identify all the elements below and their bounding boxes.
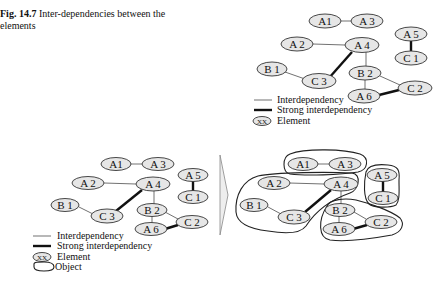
node-a3: A 3 (142, 158, 174, 171)
node-c1: C 1 (368, 192, 398, 205)
node-a2: A 2 (281, 37, 313, 51)
svg-text:C 2: C 2 (184, 216, 200, 228)
node-c2: C 2 (365, 216, 397, 229)
legend-object-icon (34, 262, 54, 271)
node-a6: A 6 (135, 223, 167, 236)
legend-element-label: Element (277, 115, 311, 126)
svg-text:C 1: C 1 (375, 192, 391, 204)
edge-b1-c3 (285, 72, 305, 79)
svg-text:C 3: C 3 (99, 210, 115, 222)
svg-text:A 6: A 6 (356, 90, 372, 102)
svg-text:B 1: B 1 (57, 199, 73, 211)
svg-text:A 2: A 2 (289, 38, 305, 50)
node-a5: A 5 (395, 27, 427, 41)
node-a1: A1 (101, 158, 131, 171)
svg-text:A1: A1 (296, 158, 309, 170)
svg-text:A 3: A 3 (337, 158, 353, 170)
svg-text:A 5: A 5 (185, 169, 201, 181)
node-a1: A1 (288, 158, 318, 171)
legend-object-label: Object (55, 261, 82, 272)
edge-a2-a4 (313, 44, 345, 45)
bottom-legend: Interdependency Strong interdependency X… (33, 230, 152, 272)
svg-text:B 1: B 1 (246, 199, 262, 211)
node-c2: C 2 (398, 81, 432, 95)
edge-b1-c3 (79, 207, 93, 214)
svg-text:A1: A1 (109, 158, 122, 170)
svg-text:XX: XX (37, 254, 47, 262)
svg-text:C 3: C 3 (286, 211, 302, 223)
node-a3: A 3 (351, 14, 383, 28)
node-a6: A 6 (348, 89, 380, 103)
node-b2: B 2 (349, 66, 381, 80)
svg-text:A 6: A 6 (331, 223, 347, 235)
svg-text:B 2: B 2 (357, 67, 373, 79)
svg-text:A 3: A 3 (359, 15, 375, 27)
node-a1: A1 (309, 14, 341, 28)
transition-arrow-icon (220, 155, 228, 235)
interdependency-diagram: .n { fill:#e6e6e6; stroke:#333; stroke-w… (0, 0, 438, 282)
node-b1: B 1 (240, 199, 268, 212)
edge-a2-a4 (289, 183, 324, 184)
node-a4: A 4 (136, 177, 170, 191)
node-c1: C 1 (178, 191, 208, 204)
node-c1: C 1 (395, 51, 427, 65)
svg-text:A 4: A 4 (145, 178, 161, 190)
svg-text:A 3: A 3 (150, 158, 166, 170)
edge-b2-c2 (380, 76, 400, 85)
svg-text:C 2: C 2 (373, 216, 389, 228)
node-b1: B 1 (51, 199, 79, 212)
svg-text:C 3: C 3 (311, 75, 327, 87)
bottom-right-diagram: A1 A 3 A 2 A 4 A 5 C 1 B 1 C 3 B 2 C 2 A… (236, 150, 402, 241)
node-a6: A 6 (323, 223, 355, 236)
node-a5: A 5 (367, 169, 397, 182)
node-c3: C 3 (91, 209, 123, 223)
svg-text:A 2: A 2 (80, 177, 96, 189)
node-b2: B 2 (137, 204, 167, 217)
edge-a4-c3-strong (329, 52, 352, 78)
svg-text:C 2: C 2 (407, 82, 423, 94)
svg-text:C 1: C 1 (185, 191, 201, 203)
svg-text:A 5: A 5 (403, 28, 419, 40)
node-c3: C 3 (278, 210, 310, 224)
svg-text:A 5: A 5 (374, 169, 390, 181)
node-b2: B 2 (325, 204, 355, 217)
legend-strong-label: Strong interdependency (277, 104, 372, 115)
svg-text:B 2: B 2 (332, 204, 348, 216)
node-a4: A 4 (324, 177, 358, 191)
node-a2: A 2 (72, 177, 104, 190)
edge-a6-c2-strong (379, 90, 399, 95)
edge-a2-a4 (104, 183, 136, 184)
node-b1: B 1 (257, 62, 287, 76)
edge-b2-c2 (354, 212, 366, 219)
node-a4: A 4 (345, 38, 379, 53)
svg-text:A 4: A 4 (333, 178, 349, 190)
svg-text:A 4: A 4 (354, 39, 370, 51)
svg-text:A 6: A 6 (143, 223, 159, 235)
node-a2: A 2 (258, 177, 290, 190)
svg-text:A 2: A 2 (266, 177, 282, 189)
node-a5: A 5 (178, 169, 208, 182)
svg-text:B 1: B 1 (264, 63, 280, 75)
node-a3: A 3 (329, 158, 361, 171)
edge-b2-c2 (165, 212, 178, 219)
bottom-left-diagram: A1 A 3 A 2 A 4 A 5 C 1 B 1 C 3 B 2 C 2 A… (33, 158, 208, 273)
svg-text:C 1: C 1 (403, 52, 419, 64)
svg-text:XX: XX (257, 118, 267, 126)
edge-b1-c3 (268, 207, 281, 214)
svg-text:B 2: B 2 (144, 204, 160, 216)
node-c3: C 3 (302, 74, 336, 89)
top-diagram: A1 A 3 A 2 A 4 A 5 C 1 B 1 C 3 B 2 C 2 A… (253, 14, 432, 126)
svg-text:A1: A1 (318, 15, 331, 27)
node-c2: C 2 (176, 216, 208, 229)
legend-strong-label: Strong interdependency (57, 240, 152, 251)
